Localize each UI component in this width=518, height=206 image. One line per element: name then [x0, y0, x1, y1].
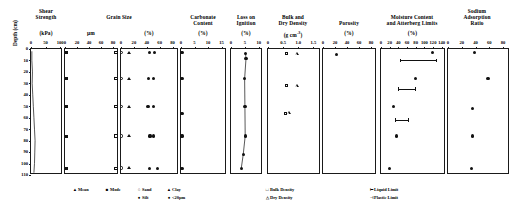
x-tick-porosity [335, 47, 336, 49]
x-tick-label-sodium-adsorption-ratio: 20 [455, 40, 469, 45]
data-point-grain-size-pct [153, 51, 156, 54]
x-tick-moisture-atterberg [390, 47, 391, 49]
x-tick-sodium-adsorption-ratio [448, 47, 449, 49]
x-tick-grain-size-pct [147, 47, 148, 49]
panel-title-loss-on-ignition: Loss onIgnition [228, 14, 264, 26]
atterberg-range-bar [398, 89, 414, 90]
data-point-sodium-adsorption-ratio [473, 51, 476, 54]
data-point-grain-size-pct [156, 167, 159, 170]
panel-unit-porosity: (%) [322, 30, 376, 36]
legend-sand: ○Sand [136, 187, 152, 192]
data-point-grain-size-um [65, 77, 68, 80]
data-point-grain-size-um [114, 105, 117, 108]
depth-tick-label: 40 [16, 92, 28, 97]
x-tick-sodium-adsorption-ratio [476, 47, 477, 49]
x-tick-label-bulk-dry-density: 0 [261, 40, 275, 45]
panel-unit-shear-strength: (kPa) [25, 30, 67, 36]
atterberg-range-bar [400, 60, 436, 61]
legend-plastic-limit: ⊣Plastic Limit [368, 195, 398, 200]
legend-bulk-density: □Bulk Density [264, 187, 294, 192]
panel-title-moisture-atterberg: Moisture Contentand Atterberg Limits [370, 14, 454, 26]
data-point-bulk-dry-density [295, 84, 299, 87]
data-point-moisture-atterberg [388, 167, 391, 170]
data-point-grain-size-um [65, 167, 68, 170]
panel-title-shear-strength: ShearStrength [25, 8, 67, 20]
depth-tick-label: 0 [16, 46, 28, 51]
x-tick-label-carbonate-content: 5 [188, 40, 202, 45]
data-point-grain-size-pct [127, 77, 131, 80]
depth-tick [29, 175, 31, 176]
legend-u20: ●<20µm [166, 195, 185, 200]
legend-clay-label: Clay [172, 187, 181, 192]
x-tick-grain-size-um [101, 47, 102, 49]
panel-sodium-adsorption-ratio: 020406080 [447, 48, 509, 174]
data-point-loss-on-ignition [244, 134, 247, 137]
data-point-grain-size-pct [120, 166, 123, 169]
panel-grain-size-um: 020406080 [64, 48, 118, 174]
x-tick-moisture-atterberg [433, 47, 434, 49]
x-tick-grain-size-um [65, 47, 66, 49]
data-point-bulk-dry-density [285, 84, 288, 87]
x-tick-label-grain-size-pct: 40 [140, 40, 154, 45]
x-tick-sodium-adsorption-ratio [503, 47, 504, 49]
legend-dry-density: △Dry Density [264, 195, 293, 200]
panel-title-grain-size-um: Grain Size [92, 14, 146, 20]
plastic-limit-cap [395, 118, 396, 121]
x-tick-carbonate-content [181, 47, 182, 49]
x-tick-label-sodium-adsorption-ratio: 0 [441, 40, 455, 45]
x-tick-sodium-adsorption-ratio [489, 47, 490, 49]
data-point-grain-size-um [114, 51, 117, 54]
x-tick-label-carbonate-content: 0 [174, 40, 188, 45]
plastic-limit-cap [400, 59, 401, 62]
x-tick-label-shear-strength: 50 [39, 40, 53, 45]
data-point-sodium-adsorption-ratio [486, 77, 489, 80]
depth-tick-label: 70 [16, 127, 28, 132]
x-tick-grain-size-pct [173, 47, 174, 49]
x-tick-carbonate-content [222, 47, 223, 49]
data-point-grain-size-um [65, 105, 68, 108]
plastic-limit-cap [398, 87, 399, 90]
data-point-carbonate-content [180, 51, 183, 54]
data-point-grain-size-pct [147, 77, 150, 80]
series-line-shear-strength [31, 49, 63, 175]
x-tick-label-bulk-dry-density: 0.5 [276, 40, 290, 45]
data-point-loss-on-ignition [243, 105, 246, 108]
legend-bulk-density-label: Bulk Density [270, 187, 294, 192]
data-point-sodium-adsorption-ratio [470, 167, 473, 170]
legend-mean-label: Mean [78, 187, 89, 192]
panel-title-bulk-dry-density: Bulk andDry Density [267, 14, 319, 26]
data-point-carbonate-content [180, 167, 183, 170]
data-point-grain-size-um [114, 167, 117, 170]
data-point-grain-size-pct [152, 134, 155, 137]
x-tick-grain-size-um [89, 47, 90, 49]
data-point-grain-size-um [65, 135, 68, 138]
panel-unit-grain-size-um: µm [64, 30, 118, 36]
x-tick-label-grain-size-pct: 60 [153, 40, 167, 45]
depth-tick-label: 60 [16, 115, 28, 120]
data-point-sodium-adsorption-ratio [471, 107, 474, 110]
legend-silt-label: Silt [142, 195, 148, 200]
panel-loss-on-ignition: 0510 [230, 48, 262, 174]
data-point-sodium-adsorption-ratio [471, 134, 474, 137]
x-tick-moisture-atterberg [398, 47, 399, 49]
x-tick-carbonate-content [195, 47, 196, 49]
panel-unit-carbonate-content: (%) [180, 30, 226, 36]
x-tick-moisture-atterberg [416, 47, 417, 49]
data-point-grain-size-pct [120, 134, 123, 137]
legend-mode-label: Mode [110, 187, 121, 192]
data-point-bulk-dry-density [287, 111, 291, 114]
x-tick-porosity [359, 47, 360, 49]
x-tick-bulk-dry-density [268, 47, 269, 49]
legend-silt: ●Silt [136, 195, 148, 200]
x-tick-label-loss-on-ignition: 5 [238, 40, 252, 45]
x-tick-grain-size-um [77, 47, 78, 49]
liquid-limit-cap [408, 118, 409, 121]
panel-title-carbonate-content: CarbonateContent [179, 14, 227, 26]
x-tick-moisture-atterberg [407, 47, 408, 49]
data-point-moisture-atterberg [431, 51, 434, 54]
x-tick-porosity [371, 47, 372, 49]
data-point-carbonate-content [180, 112, 183, 115]
data-point-loss-on-ignition [240, 167, 243, 170]
liquid-limit-cap [436, 59, 437, 62]
data-point-grain-size-pct [120, 77, 123, 80]
